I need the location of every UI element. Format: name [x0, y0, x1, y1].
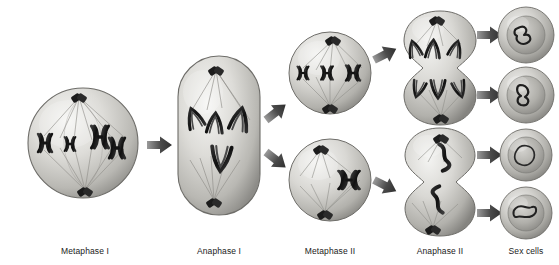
cell-metaphase-2-bottom [289, 139, 371, 221]
sex-cell-3 [500, 129, 552, 181]
label-sex-cells: Sex cells [509, 246, 544, 256]
label-metaphase-2: Metaphase II [305, 246, 355, 256]
sex-cell-4 [500, 187, 552, 239]
cell-metaphase-1 [28, 88, 138, 198]
cell-anaphase-1 [178, 56, 260, 215]
meiosis-diagram: Metaphase I Anaphase I Metaphase II Anap… [0, 0, 559, 265]
label-anaphase-1: Anaphase I [197, 246, 241, 256]
sex-cell-1 [498, 7, 554, 63]
meiosis-illustration [0, 0, 559, 265]
label-anaphase-2: Anaphase II [417, 246, 463, 256]
label-metaphase-1: Metaphase I [61, 246, 109, 256]
sex-cell-2 [498, 67, 554, 123]
cell-metaphase-2-top [289, 32, 371, 114]
